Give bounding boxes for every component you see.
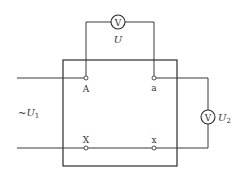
terminal-a (152, 76, 156, 80)
voltmeter-symbol: V (114, 18, 122, 28)
terminal-x (152, 146, 156, 150)
label-U2-subscript: 2 (226, 117, 230, 125)
wire-right-meter-to-x (156, 124, 208, 148)
circuit-diagram: V U V U2 ~U1 A a X x (0, 0, 244, 177)
label-U2: U2 (218, 112, 231, 125)
label-terminal-a: a (151, 83, 157, 93)
terminal-A (84, 76, 88, 80)
voltmeter-symbol: V (204, 113, 212, 123)
transformer-box (63, 60, 177, 166)
label-source-U1: ~U1 (18, 107, 39, 120)
label-terminal-x: x (151, 135, 156, 145)
label-terminal-A: A (82, 84, 90, 94)
label-terminal-X: X (83, 135, 90, 145)
terminal-X (84, 146, 88, 150)
label-U1-subscript: 1 (35, 112, 39, 120)
ac-symbol: ~ (18, 107, 26, 118)
voltmeter-right: V (201, 110, 215, 124)
wire-A-to-top-meter (86, 22, 111, 76)
wire-top-meter-to-a (125, 22, 154, 76)
voltmeter-top: V (111, 15, 125, 29)
label-U: U (114, 34, 123, 45)
wire-a-to-right-meter (156, 78, 208, 110)
